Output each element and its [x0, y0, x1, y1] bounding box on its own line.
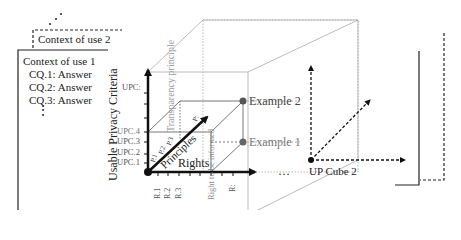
example-1-label: Example 1	[249, 135, 301, 150]
y-tick: UPC:	[122, 82, 141, 92]
more-cubes-ellipsis: …	[278, 164, 290, 179]
y-tick: UPC.3	[117, 136, 140, 146]
y-tick: UPC.4	[117, 126, 140, 136]
cube-1-wireframe	[148, 20, 358, 210]
context-question: CQ.2: Answer	[29, 81, 92, 93]
x-tick: R.3	[174, 188, 183, 199]
example-2-point	[240, 98, 247, 105]
cube-1-origin	[144, 168, 152, 176]
x-axis-label: Rights	[178, 156, 209, 171]
y-tick: UPC.2	[117, 147, 140, 157]
cube-2-label: UP Cube 2	[309, 165, 357, 177]
x-tick: R.2	[163, 188, 172, 199]
context-2-title: Context of use 2	[38, 33, 110, 45]
x-tick: R:	[228, 184, 237, 192]
y-tick: UPC.1	[117, 157, 140, 167]
more-questions: ⋮	[36, 104, 50, 118]
cube-2-frame	[395, 33, 444, 185]
example-2-label: Example 2	[249, 94, 301, 109]
transparency-principle-label: Transparency principle	[165, 40, 176, 132]
context-1-title: Context of use 1	[23, 55, 95, 67]
cube-2-origin	[308, 157, 314, 163]
example-1-point	[240, 139, 247, 146]
context-question: CQ.1: Answer	[29, 68, 92, 80]
x-tick: R.1	[153, 188, 162, 199]
